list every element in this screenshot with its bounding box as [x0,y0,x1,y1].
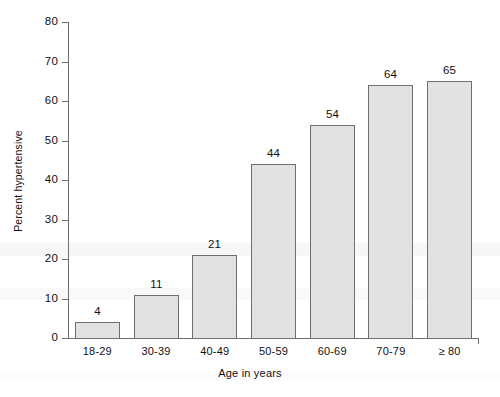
bar [310,125,355,339]
x-axis-title: Age in years [0,367,500,379]
x-axis-category-label: 50-59 [244,345,303,357]
y-axis-tick-mark [62,22,68,23]
y-axis-tick-label: 60 [0,95,58,107]
bar-value-label: 54 [295,108,370,120]
x-axis-category-label: 70-79 [362,345,421,357]
y-axis-tick-mark [62,141,68,142]
x-axis-category-label: 30-39 [127,345,186,357]
bar-value-label: 44 [236,147,311,159]
y-axis-tick-label: 80 [0,16,58,28]
y-axis-line [68,22,69,339]
y-axis-tick-label-text: 60 [0,95,58,107]
bar [368,85,413,339]
bar [251,164,296,339]
y-axis-title: Percent hypertensive [12,101,24,261]
y-axis-tick-label-text: 20 [0,253,58,265]
bar [427,81,472,339]
y-axis-tick-mark [62,338,68,339]
y-axis-tick-mark [62,101,68,102]
x-axis-category-label: 60-69 [303,345,362,357]
y-axis-tick-label-text: 40 [0,174,58,186]
bar-value-label: 11 [119,278,194,290]
y-axis-tick-label-text: 10 [0,293,58,305]
y-axis-tick-label-text: 0 [0,332,58,344]
y-axis-tick-mark [62,62,68,63]
y-axis-tick-mark [62,259,68,260]
x-axis-end-tick [478,338,479,344]
bar-chart-figure: 01020304050607080 4112144546465 18-2930-… [0,0,500,397]
bar [75,322,120,339]
y-axis-tick-label: 10 [0,293,58,305]
y-axis-tick-label: 20 [0,253,58,265]
y-axis-tick-mark [62,180,68,181]
bar-value-label: 21 [177,238,252,250]
y-axis-tick-mark [62,220,68,221]
scan-artifact-band [0,288,500,300]
y-axis-tick-label-text: 80 [0,16,58,28]
y-axis-tick-label-text: 50 [0,135,58,147]
bar [134,295,179,339]
bar-value-label: 4 [60,305,135,317]
y-axis-tick-label: 50 [0,135,58,147]
y-axis-tick-mark [62,299,68,300]
bar-value-label: 65 [412,64,487,76]
y-axis-tick-label: 40 [0,174,58,186]
x-axis-category-label: ≥ 80 [420,345,479,357]
y-axis-tick-label-text: 70 [0,56,58,68]
x-axis-category-label: 18-29 [68,345,127,357]
y-axis-tick-label-text: 30 [0,214,58,226]
x-axis-category-label: 40-49 [185,345,244,357]
bar [192,255,237,339]
y-axis-tick-label: 30 [0,214,58,226]
y-axis-tick-label: 0 [0,332,58,344]
y-axis-tick-label: 70 [0,56,58,68]
